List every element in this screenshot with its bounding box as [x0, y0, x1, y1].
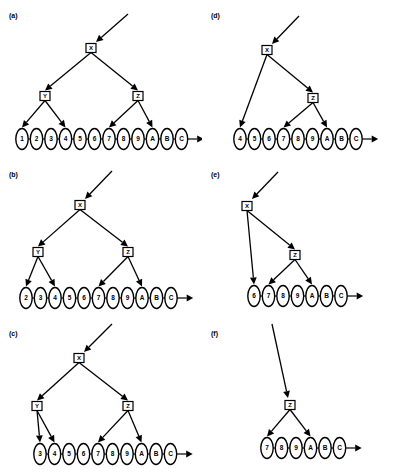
chain-node[interactable]: 6	[263, 129, 275, 150]
tree-box-x[interactable]: X	[262, 46, 272, 55]
chain-node-label: 8	[281, 292, 285, 299]
chain-node[interactable]: 1	[16, 129, 28, 150]
chain-node[interactable]: 5	[74, 129, 86, 150]
chain-node[interactable]: 9	[291, 286, 303, 307]
chain-node[interactable]: 8	[107, 288, 119, 309]
tree-box-label: X	[265, 47, 269, 53]
panel-e-diagram: 6789ABCXZ	[202, 159, 404, 317]
tree-box-z[interactable]: Z	[290, 251, 300, 260]
panel-b-diagram: 23456789ABCXYZ	[0, 159, 202, 317]
edge-Y-to-node-4	[38, 257, 55, 287]
chain-node[interactable]: C	[165, 288, 177, 309]
chain-node[interactable]: 6	[88, 129, 100, 150]
chain-node[interactable]: 7	[92, 444, 104, 465]
edge-Z-to-node-7	[269, 260, 296, 285]
panel-d-label: (d)	[211, 12, 220, 20]
chain-node[interactable]: A	[136, 288, 148, 309]
chain-node[interactable]: 8	[117, 129, 129, 150]
tree-box-y[interactable]: Y	[40, 92, 50, 101]
chain-node[interactable]: A	[146, 129, 158, 150]
edge-Z-to-node-7	[99, 257, 129, 287]
chain-node-label: B	[324, 292, 329, 299]
chain-node[interactable]: 8	[106, 444, 118, 465]
chain-node[interactable]: A	[306, 286, 318, 307]
chain-node[interactable]: B	[150, 444, 162, 465]
chain-node-label: 8	[296, 135, 300, 142]
chain-node-label: 3	[49, 135, 53, 142]
tree-box-z[interactable]: Z	[133, 92, 143, 101]
chain-node[interactable]: 8	[277, 286, 289, 307]
chain-node[interactable]: 9	[306, 129, 318, 150]
chain-node[interactable]: 4	[48, 444, 60, 465]
chain-node[interactable]: A	[304, 438, 316, 459]
tree-box-z[interactable]: Z	[123, 248, 133, 257]
chain-node[interactable]: 7	[92, 288, 104, 309]
edge-Y-to-node-4	[45, 101, 66, 128]
chain-node[interactable]: 7	[277, 129, 289, 150]
chain-node[interactable]: 8	[292, 129, 304, 150]
panel-e-label: (e)	[211, 171, 220, 179]
chain-node[interactable]: 6	[248, 286, 260, 307]
chain-node[interactable]: 6	[77, 444, 89, 465]
chain-node-label: A	[150, 135, 155, 142]
chain-node[interactable]: 2	[20, 288, 32, 309]
chain-node[interactable]: 5	[63, 288, 75, 309]
chain-node[interactable]: 7	[103, 129, 115, 150]
chain-node[interactable]: C	[164, 444, 176, 465]
chain-node[interactable]: 9	[132, 129, 144, 150]
chain-terminal-arrow	[177, 450, 193, 457]
chain-node[interactable]: B	[319, 438, 331, 459]
chain-node[interactable]: 4	[59, 129, 71, 150]
chain-node[interactable]: 7	[261, 438, 273, 459]
chain-node[interactable]: C	[333, 438, 345, 459]
chain-node[interactable]: 9	[121, 444, 133, 465]
tree-box-x[interactable]: X	[242, 202, 252, 211]
chain-terminal-arrow	[362, 135, 378, 142]
chain-node[interactable]: C	[350, 129, 362, 150]
chain-node[interactable]: B	[150, 288, 162, 309]
chain-node[interactable]: A	[135, 444, 147, 465]
chain-node[interactable]: 7	[262, 286, 274, 307]
chain-node-label: 4	[53, 450, 57, 457]
chain-node[interactable]: C	[175, 129, 187, 150]
tree-box-z[interactable]: Z	[308, 94, 318, 103]
chain-node[interactable]: 8	[275, 438, 287, 459]
tree-box-x[interactable]: X	[74, 354, 84, 363]
tree-box-x[interactable]: X	[75, 201, 85, 210]
chain-node[interactable]: 2	[30, 129, 42, 150]
chain-node-label: 5	[253, 135, 257, 142]
tree-box-label: Z	[126, 249, 130, 255]
chain-node[interactable]: 5	[248, 129, 260, 150]
chain-node-label: 8	[122, 135, 126, 142]
edge-Z-to-node-A	[128, 257, 142, 287]
chain-node[interactable]: 9	[121, 288, 133, 309]
chain-node[interactable]: 4	[49, 288, 61, 309]
chain-terminal-arrow	[188, 135, 202, 142]
edge-Z-to-node-7	[267, 410, 290, 437]
chain-node-label: 6	[93, 135, 97, 142]
panel-b: 23456789ABCXYZ(b)	[0, 159, 202, 317]
chain-node-label: 1	[20, 135, 24, 142]
chain-node[interactable]: B	[320, 286, 332, 307]
tree-box-y[interactable]: Y	[33, 248, 43, 257]
chain-node-label: C	[354, 135, 359, 142]
chain-node[interactable]: A	[321, 129, 333, 150]
tree-box-y[interactable]: Y	[32, 402, 42, 411]
chain-node[interactable]: 3	[45, 129, 57, 150]
tree-box-z[interactable]: Z	[123, 402, 133, 411]
panel-a-incoming-arrow	[96, 14, 128, 42]
chain-node[interactable]: B	[335, 129, 347, 150]
chain-node[interactable]: 6	[78, 288, 90, 309]
chain-node[interactable]: C	[335, 286, 347, 307]
tree-box-label: X	[77, 355, 81, 361]
chain-node[interactable]: B	[161, 129, 173, 150]
chain-node[interactable]: 4	[234, 129, 246, 150]
tree-box-z[interactable]: Z	[285, 401, 295, 410]
tree-box-x[interactable]: X	[86, 44, 96, 53]
chain-node[interactable]: 5	[63, 444, 75, 465]
chain-node[interactable]: 3	[34, 444, 46, 465]
chain-node-label: 4	[64, 135, 68, 142]
chain-node-label: 6	[82, 450, 86, 457]
chain-node[interactable]: 3	[34, 288, 46, 309]
chain-node[interactable]: 9	[290, 438, 302, 459]
